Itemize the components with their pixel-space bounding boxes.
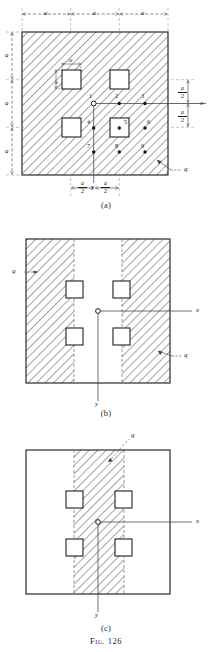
frac-denominator: 2	[101, 188, 110, 194]
dim-label-bottom-half-2: a 2	[101, 180, 110, 194]
dim-label-right-half-1: a 2	[178, 85, 187, 99]
axis-label-x-a: x	[200, 100, 203, 107]
frac-denominator: 2	[78, 188, 87, 194]
dim-label-left-2: a	[5, 100, 9, 107]
figure-126: a a a a a a a 2 a 2 a 2 a 2 u v x y q	[0, 0, 212, 652]
frac-denominator: 2	[178, 93, 187, 99]
load-label-q-a: q	[184, 166, 188, 173]
frac-numerator: a	[101, 180, 110, 186]
hole-height-label-v: v	[52, 81, 60, 84]
figure-caption: Fig. 126	[0, 636, 212, 646]
axis-label-y-c: y	[95, 612, 98, 619]
panel-b: q q x y (b)	[0, 215, 212, 415]
panel-b-drawing	[0, 215, 212, 415]
dim-label-bottom-half-1: a 2	[78, 180, 87, 194]
panel-caption-a: (a)	[0, 200, 212, 210]
frac-numerator: a	[178, 85, 187, 91]
load-label-q-c: q	[131, 432, 135, 439]
dim-label-right-half-2: a 2	[178, 109, 187, 123]
panel-c: q x y (c) Fig. 126	[0, 420, 212, 652]
point-label-7: 7	[87, 143, 90, 149]
point-label-5: 5	[124, 119, 127, 125]
hole-width-label-u: u	[69, 57, 73, 64]
point-label-9: 9	[141, 143, 144, 149]
dim-label-top-1: a	[44, 10, 48, 17]
point-label-4: 4	[87, 119, 90, 125]
dim-label-top-2: a	[93, 10, 97, 17]
dim-label-left-3: a	[5, 148, 9, 155]
axis-label-y-a: y	[91, 184, 94, 191]
frac-numerator: a	[178, 109, 187, 115]
axis-label-x-b: x	[196, 307, 199, 314]
panel-c-drawing	[0, 420, 212, 652]
frac-numerator: a	[78, 180, 87, 186]
point-label-8: 8	[115, 143, 118, 149]
dim-label-top-3: a	[141, 10, 145, 17]
axis-label-y-b: y	[95, 401, 98, 408]
point-label-6: 6	[147, 119, 150, 125]
frac-denominator: 2	[178, 117, 187, 123]
load-label-q-b-right: q	[184, 352, 188, 359]
point-label-3: 3	[141, 93, 144, 99]
load-label-q-b-left: q	[12, 268, 16, 275]
panel-caption-c: (c)	[0, 623, 212, 633]
point-label-2: 2	[115, 93, 118, 99]
point-label-1: 1	[89, 93, 92, 99]
dim-label-left-1: a	[5, 52, 9, 59]
load-band-left-b	[26, 239, 74, 383]
panel-a: a a a a a a a 2 a 2 a 2 a 2 u v x y q	[0, 0, 212, 212]
panel-caption-b: (b)	[0, 408, 212, 418]
axis-label-x-c: x	[196, 518, 199, 525]
